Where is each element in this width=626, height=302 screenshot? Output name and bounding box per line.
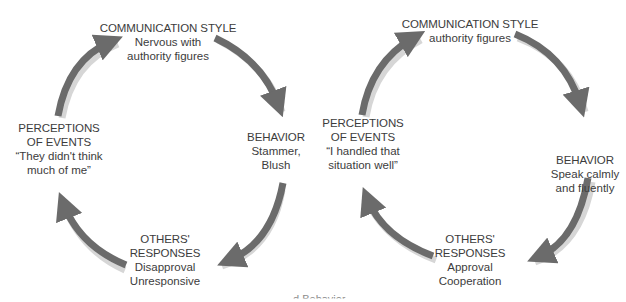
- arrow-responses-to-perceptions: [64, 205, 126, 265]
- node-heading: OF EVENTS: [15, 135, 102, 149]
- node-text: Disapproval: [130, 260, 201, 274]
- node-text: Stammer,: [247, 144, 305, 158]
- node-text: Cooperation: [435, 274, 506, 288]
- node-text: Nervous with: [100, 35, 237, 49]
- node-heading: COMMUNICATION STYLE: [402, 17, 539, 31]
- node-text: “I handled that: [322, 144, 403, 158]
- node-text: and fluently: [551, 181, 619, 195]
- node-heading: BEHAVIOR: [247, 130, 305, 144]
- node-heading: RESPONSES: [130, 246, 201, 260]
- node-others-responses: OTHERS' RESPONSES Disapproval Unresponsi…: [130, 232, 201, 288]
- node-heading: BEHAVIOR: [551, 153, 619, 167]
- node-communication-style: COMMUNICATION STYLE authority figures: [402, 17, 539, 45]
- node-heading: OTHERS': [435, 232, 506, 246]
- node-text: “They didn't think: [15, 149, 102, 163]
- node-perceptions-of-events: PERCEPTIONS OF EVENTS “They didn't think…: [15, 121, 102, 177]
- node-behavior: BEHAVIOR Speak calmly and fluently: [551, 153, 619, 195]
- node-text: authority figures: [402, 31, 539, 45]
- node-heading: PERCEPTIONS: [322, 116, 403, 130]
- cycle-diagram-right: COMMUNICATION STYLE authority figures BE…: [313, 0, 626, 302]
- node-heading: COMMUNICATION STYLE: [100, 21, 237, 35]
- node-others-responses: OTHERS' RESPONSES Approval Cooperation: [435, 232, 506, 288]
- node-text: much of me”: [15, 163, 102, 177]
- node-text: authority figures: [100, 49, 237, 63]
- node-communication-style: COMMUNICATION STYLE Nervous with authori…: [100, 21, 237, 63]
- node-text: Approval: [435, 260, 506, 274]
- node-heading: RESPONSES: [435, 246, 506, 260]
- node-text: situation well”: [322, 158, 403, 172]
- node-text: Unresponsive: [130, 274, 201, 288]
- node-heading: OTHERS': [130, 232, 201, 246]
- cycle-diagram-left: COMMUNICATION STYLE Nervous with authori…: [0, 0, 313, 302]
- node-heading: OF EVENTS: [322, 130, 403, 144]
- node-text: Speak calmly: [551, 167, 619, 181]
- node-behavior: BEHAVIOR Stammer, Blush: [247, 130, 305, 172]
- node-perceptions-of-events: PERCEPTIONS OF EVENTS “I handled that si…: [322, 116, 403, 172]
- node-heading: PERCEPTIONS: [15, 121, 102, 135]
- arrow-responses-to-perceptions: [368, 200, 433, 256]
- node-text: Blush: [247, 158, 305, 172]
